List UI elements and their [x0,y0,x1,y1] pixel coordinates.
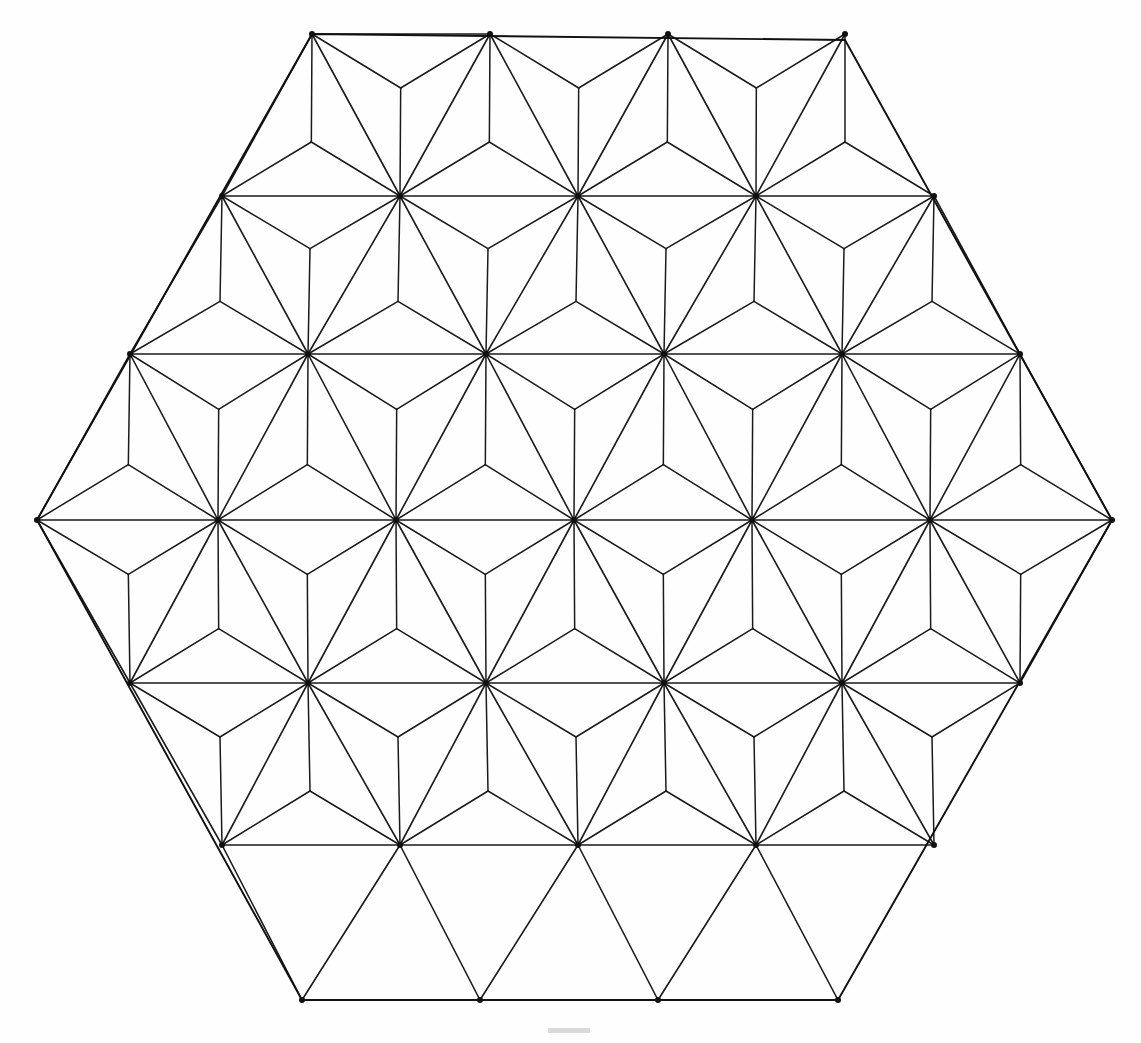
lattice-node-r5-c4 [931,842,937,848]
lattice-node-r3-c0 [34,517,40,523]
lattice-node-r2-c0 [127,351,133,357]
centroid-spoke-20-2 [930,409,931,520]
lattice-node-r2-c2 [483,351,489,357]
lattice-node-r3-c6 [1109,517,1115,523]
lattice-node-r1-c2 [575,193,581,199]
centroid-spoke-4-2 [489,34,490,142]
lattice-node-r6-c2 [655,997,661,1003]
centroid-spoke-3-2 [311,34,312,142]
lattice-node-r3-c5 [927,517,933,523]
centroid-spoke-17-2 [396,409,397,520]
asanoha-hexagon-figure: Asanoha hexagonal tessellation Line draw… [0,0,1141,1043]
lattice-node-r2-c1 [305,351,311,357]
lattice-node-r4-c4 [839,680,845,686]
lattice-node-r3-c1 [215,517,221,523]
lattice-node-r1-c4 [931,193,937,199]
centroid-spoke-24-2 [663,354,664,465]
centroid-spoke-37-2 [930,520,931,629]
lattice-node-r0-c3 [842,31,848,37]
centroid-spoke-16-2 [218,409,219,520]
centroid-spoke-33-2 [218,520,219,629]
centroid-spoke-34-2 [396,520,397,629]
lattice-node-r5-c1 [397,842,403,848]
lattice-node-r0-c1 [487,31,493,37]
centroid-spoke-0-2 [400,88,401,196]
lattice-node-r0-c0 [309,31,315,37]
lattice-node-r6-c3 [835,997,841,1003]
lattice-node-r4-c2 [483,680,489,686]
lattice-node-r1-c1 [397,193,403,199]
centroid-spoke-18-2 [574,409,575,520]
lattice-node-r6-c0 [299,997,305,1003]
figure-canvas: Asanoha hexagonal tessellation Line draw… [0,0,1141,1043]
centroid-spoke-22-2 [307,354,308,465]
centroid-spoke-19-2 [752,409,753,520]
centroid-spoke-28-2 [307,574,308,683]
lattice-node-r6-c1 [477,997,483,1003]
lattice-node-r5-c2 [575,842,581,848]
centroid-spoke-30-2 [663,574,664,683]
lattice-node-r2-c4 [839,351,845,357]
lattice-node-r4-c5 [1017,680,1023,686]
lattice-node-r3-c4 [749,517,755,523]
lattice-node-r4-c1 [305,680,311,686]
lattice-node-r2-c3 [661,351,667,357]
lattice-node-r3-c2 [393,517,399,523]
lattice-node-r2-c5 [1017,351,1023,357]
lattice-node-r1-c0 [219,193,225,199]
centroid-spoke-32-2 [1020,574,1021,683]
lattice-node-r4-c3 [661,680,667,686]
centroid-spoke-35-2 [574,520,575,629]
centroid-spoke-25-2 [841,354,842,465]
centroid-spoke-5-2 [667,34,668,142]
lattice-node-r4-c0 [127,680,133,686]
centroid-spoke-29-2 [485,574,486,683]
lattice-node-r0-c2 [665,31,671,37]
centroid-spoke-31-2 [841,574,842,683]
lattice-node-r1-c3 [753,193,759,199]
faint-scan-mark-icon [548,1028,590,1033]
centroid-spoke-36-2 [752,520,753,629]
lattice-node-r5-c0 [219,842,225,848]
lattice-node-r3-c3 [571,517,577,523]
centroid-spoke-23-2 [485,354,486,465]
centroid-spoke-1-2 [578,88,579,196]
centroid-spoke-26-2 [1020,354,1021,465]
lattice-node-r5-c3 [753,842,759,848]
